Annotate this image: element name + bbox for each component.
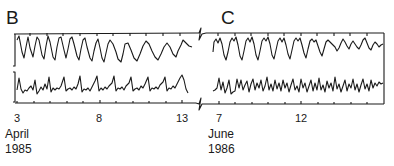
top-frame-b [14, 33, 196, 34]
year-label-c: 1986 [208, 142, 235, 157]
left-axis-upper [13, 34, 15, 66]
tick-label-b-1: 8 [96, 113, 102, 124]
tick-label-c-0: 7 [216, 113, 222, 124]
date-label-c: June 1986 [208, 127, 235, 157]
lower-trace-c [213, 77, 383, 94]
tick-label-c-1: 12 [295, 113, 307, 124]
upper-trace-c [213, 37, 383, 60]
lower-trace-b [17, 75, 188, 94]
traces-plot [0, 0, 394, 166]
tick-label-b-2: 13 [176, 113, 188, 124]
month-label-c: June [208, 127, 235, 142]
year-label-b: 1985 [5, 142, 32, 157]
axis-break-top-icon [196, 28, 206, 40]
date-label-b: April 1985 [5, 127, 32, 157]
tick-label-b-0: 3 [14, 113, 20, 124]
axis-break-bottom-icon [196, 98, 206, 110]
left-axis-lower [13, 72, 15, 102]
upper-trace-b [17, 36, 192, 62]
month-label-b: April [5, 127, 32, 142]
